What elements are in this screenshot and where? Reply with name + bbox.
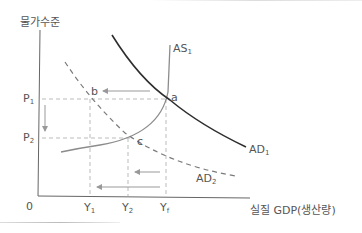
x-axis-label: 실질 GDP(생산량) — [250, 205, 336, 216]
x-axis — [38, 196, 250, 198]
price-tick-p1: P1 — [23, 93, 34, 106]
price-tick-p2: P2 — [23, 132, 34, 145]
point-a-label: a — [171, 92, 178, 103]
ad2-curve — [65, 62, 236, 176]
output-tick-yf: Yf — [160, 202, 169, 215]
output-tick-y1: Y1 — [84, 202, 95, 215]
point-c-label: c — [137, 136, 143, 147]
output-tick-y2: Y2 — [122, 202, 133, 215]
y-axis — [38, 30, 40, 196]
origin-label: 0 — [26, 201, 33, 212]
ad2-label: AD2 — [196, 173, 216, 186]
bottom-edge-rule — [0, 222, 120, 223]
as-ad-diagram — [0, 0, 362, 233]
point-b-label: b — [91, 86, 98, 97]
as1-label: AS1 — [173, 43, 192, 56]
ad1-label: AD1 — [249, 144, 269, 157]
y-axis-label: 물가수준 — [20, 17, 60, 28]
